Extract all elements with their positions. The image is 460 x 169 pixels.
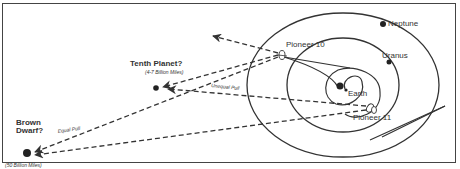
- tenth-planet-distance: (4-7 Billion Miles): [145, 69, 184, 75]
- pull-line-p11-to-tenth: [168, 89, 366, 106]
- earth-label: Earth: [348, 89, 367, 98]
- tenth-planet-title: Tenth Planet?: [130, 59, 182, 68]
- unequal-pull-label: Unequal Pull: [211, 82, 241, 91]
- brown-dwarf-title-2: Dwarf?: [16, 126, 43, 135]
- uranus-label: Uranus: [382, 51, 408, 60]
- pioneer11-path-out: [382, 106, 445, 137]
- pioneer11-trajectory: [326, 68, 445, 140]
- brown-dwarf-dot: [23, 149, 31, 157]
- neptune-dot: [380, 21, 386, 27]
- equal-pull-label: Equal Pull: [57, 125, 81, 134]
- pioneer11-label: Pioneer 11: [353, 113, 392, 122]
- pull-line-p10-to-upper: [213, 36, 278, 53]
- sun-dot: [337, 83, 344, 90]
- uranus-dot: [387, 60, 392, 65]
- brown-dwarf-distance: (50 Billion Miles): [5, 162, 42, 168]
- pioneer10-label: Pioneer 10: [286, 40, 325, 49]
- pull-line-p11-to-dwarf: [35, 110, 366, 155]
- solar-system-diagram: Neptune Uranus Pioneer 10 Earth Pioneer …: [0, 0, 460, 169]
- pioneer11-icon: [365, 103, 376, 114]
- pioneer10-icon: [278, 51, 287, 60]
- tenth-planet-dot: [153, 85, 159, 91]
- neptune-label: Neptune: [388, 19, 419, 28]
